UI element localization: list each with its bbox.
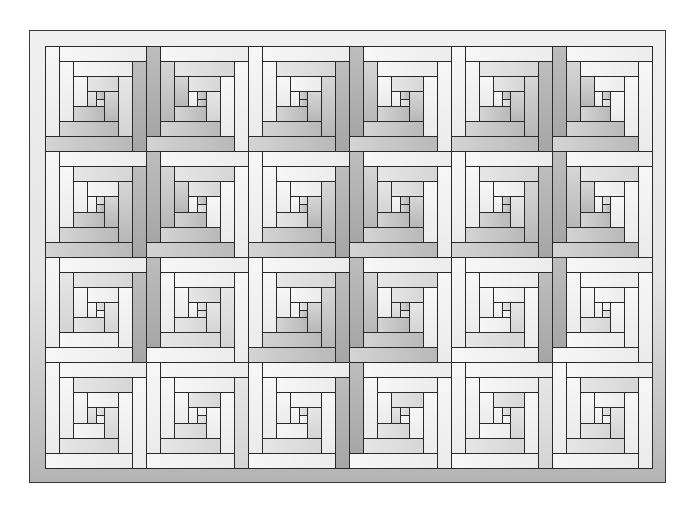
log-bottom — [552, 242, 639, 258]
log-right — [409, 196, 424, 228]
log-right — [437, 166, 452, 258]
log-left — [160, 61, 175, 122]
log-bottom — [566, 332, 625, 348]
log-bottom — [248, 347, 336, 363]
log-left — [248, 151, 263, 243]
log-right — [321, 181, 336, 243]
log-right — [638, 272, 653, 363]
log-left — [59, 166, 74, 228]
log-right — [524, 392, 539, 454]
center-piece-bottom-right — [400, 415, 410, 424]
log-bottom — [160, 438, 221, 454]
log-top — [566, 362, 653, 378]
log-left — [349, 257, 364, 348]
log-left — [349, 362, 364, 454]
log-right — [538, 377, 553, 469]
log-left — [479, 181, 494, 213]
log-top — [479, 61, 539, 77]
log-left — [552, 257, 567, 348]
log-right — [624, 392, 639, 454]
log-left — [465, 272, 480, 333]
log-top — [160, 257, 249, 273]
log-top — [262, 362, 350, 378]
log-bottom — [465, 227, 525, 243]
log-bottom — [174, 317, 207, 333]
log-left — [174, 181, 189, 213]
log-left — [248, 362, 263, 454]
log-right — [307, 196, 322, 228]
log-bottom — [146, 242, 235, 258]
log-bottom — [276, 423, 308, 439]
log-left — [262, 166, 277, 228]
log-right — [524, 287, 539, 348]
log-bottom — [451, 453, 539, 469]
log-right — [524, 76, 539, 137]
log-bottom — [174, 106, 207, 122]
log-top — [493, 392, 525, 408]
log-right — [538, 272, 553, 363]
log-bottom — [73, 423, 105, 439]
log-bottom — [45, 242, 133, 258]
log-left — [146, 46, 161, 137]
log-bottom — [248, 453, 336, 469]
log-right — [624, 287, 639, 348]
log-top — [580, 166, 639, 182]
log-left — [276, 287, 291, 318]
center-piece-bottom-right — [197, 204, 207, 213]
log-bottom — [262, 121, 322, 137]
center-piece-bottom-right — [400, 204, 410, 213]
log-top — [377, 377, 438, 393]
log-top — [493, 287, 525, 303]
log-left — [451, 362, 466, 454]
log-right — [610, 302, 625, 333]
log-right — [423, 287, 438, 348]
log-left — [73, 392, 88, 424]
log-right — [638, 377, 653, 469]
log-top — [59, 257, 147, 273]
log-right — [409, 407, 424, 439]
center-piece-bottom-right — [96, 204, 105, 213]
center-piece-bottom-right — [299, 204, 308, 213]
log-top — [73, 377, 133, 393]
log-bottom — [377, 423, 410, 439]
log-left — [73, 287, 88, 318]
log-right — [307, 91, 322, 122]
log-right — [524, 181, 539, 243]
log-right — [220, 392, 235, 454]
log-left — [59, 61, 74, 122]
log-right — [206, 302, 221, 333]
log-left — [566, 377, 581, 439]
log-right — [510, 91, 525, 122]
log-top — [580, 61, 639, 77]
center-piece-bottom-right — [197, 99, 207, 107]
center-piece-bottom-right — [502, 204, 511, 213]
log-left — [566, 61, 581, 122]
log-top — [479, 272, 539, 288]
log-bottom — [276, 106, 308, 122]
log-left — [45, 46, 60, 137]
log-top — [465, 257, 553, 273]
log-right — [118, 392, 133, 454]
log-left — [276, 76, 291, 107]
log-right — [335, 272, 350, 363]
log-right — [220, 287, 235, 348]
log-top — [73, 61, 133, 77]
log-bottom — [248, 136, 336, 152]
log-bottom — [349, 347, 438, 363]
log-right — [335, 166, 350, 258]
log-top — [276, 272, 336, 288]
log-top — [174, 61, 235, 77]
log-left — [552, 362, 567, 454]
center-piece-bottom-right — [96, 415, 105, 424]
log-right — [437, 272, 452, 363]
log-right — [610, 407, 625, 439]
log-bottom — [377, 106, 410, 122]
log-right — [104, 407, 119, 439]
log-top — [391, 76, 424, 92]
center-piece-bottom-right — [400, 310, 410, 318]
log-bottom — [451, 136, 539, 152]
log-bottom — [248, 242, 336, 258]
log-top — [594, 181, 625, 197]
log-left — [363, 272, 378, 333]
center-piece-bottom-right — [96, 310, 105, 318]
